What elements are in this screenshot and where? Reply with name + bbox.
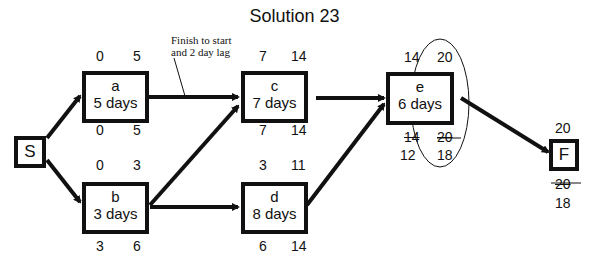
node-b: b 3 days [82, 182, 149, 234]
e-es: 14 [404, 49, 420, 65]
c-ls: 7 [259, 122, 267, 138]
diagram-title: Solution 23 [0, 6, 589, 27]
e-lf-old: 20 [437, 129, 453, 145]
d-duration: 8 days [252, 205, 296, 222]
edge-s-b [47, 160, 80, 202]
a-ls: 0 [96, 122, 104, 138]
edge-d-e [307, 104, 384, 205]
annotation-line2: and 2 day lag [171, 46, 232, 58]
d-ef: 11 [291, 157, 306, 173]
e-duration: 6 days [398, 95, 442, 112]
a-lf: 5 [133, 122, 141, 138]
e-ls: 12 [400, 147, 416, 163]
f-top: 20 [555, 120, 571, 136]
e-ef: 20 [437, 49, 453, 65]
b-lf: 6 [133, 238, 141, 254]
c-duration: 7 days [252, 94, 296, 111]
node-d: d 8 days [241, 182, 308, 234]
annotation-line1: Finish to start [171, 34, 232, 46]
f-bottom-old: 20 [555, 176, 571, 192]
c-es: 7 [259, 48, 267, 64]
d-es: 3 [259, 157, 267, 173]
edge-s-a [47, 96, 80, 138]
e-name: e [390, 78, 450, 95]
node-a: a 5 days [82, 71, 149, 123]
a-es: 0 [96, 48, 104, 64]
c-ef: 14 [291, 48, 307, 64]
a-ef: 5 [133, 48, 141, 64]
b-es: 0 [96, 157, 104, 173]
node-start: S [14, 136, 46, 168]
e-lf: 18 [437, 147, 453, 163]
node-finish: F [549, 139, 579, 171]
f-bottom: 18 [555, 195, 571, 211]
b-name: b [86, 188, 145, 205]
a-name: a [86, 77, 145, 94]
edge-b-c [150, 106, 238, 205]
node-c: c 7 days [241, 71, 308, 123]
d-ls: 6 [259, 238, 267, 254]
d-name: d [245, 188, 304, 205]
edge-e-f [461, 98, 548, 152]
b-ls: 3 [96, 238, 104, 254]
a-duration: 5 days [93, 94, 137, 111]
d-lf: 14 [291, 238, 307, 254]
c-lf: 14 [291, 122, 307, 138]
b-duration: 3 days [93, 205, 137, 222]
e-ls-old: 14 [404, 129, 420, 145]
annotation-leader [174, 58, 185, 96]
node-e: e 6 days [386, 72, 454, 125]
c-name: c [245, 77, 304, 94]
b-ef: 3 [133, 157, 141, 173]
lag-annotation: Finish to start and 2 day lag [171, 34, 232, 58]
